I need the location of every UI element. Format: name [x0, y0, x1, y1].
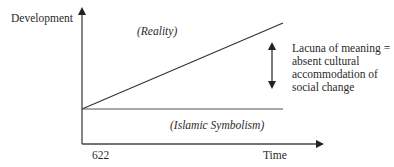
reality-label: (Reality) — [137, 25, 177, 38]
reality-line — [82, 23, 283, 109]
x-axis-label: Time — [263, 149, 287, 162]
symbolism-label: (Islamic Symbolism) — [170, 119, 264, 132]
x-start-label: 622 — [92, 149, 109, 162]
gap-annotation: Lacuna of meaning = absent cultural acco… — [292, 42, 390, 94]
gap-arrow-down-head — [268, 81, 276, 89]
gap-arrow-up-head — [268, 42, 276, 50]
gap-annotation-line: absent cultural — [292, 55, 390, 68]
gap-annotation-line: social change — [292, 81, 390, 94]
y-axis-label: Development — [11, 12, 73, 25]
gap-annotation-line: Lacuna of meaning = — [292, 42, 390, 55]
gap-annotation-line: accommodation of — [292, 68, 390, 81]
